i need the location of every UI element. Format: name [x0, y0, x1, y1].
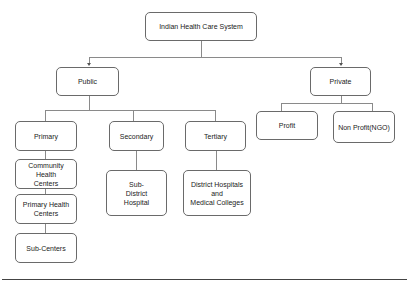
connector-tertiary-down [216, 151, 217, 170]
arrow-public-icon [87, 63, 91, 66]
bottom-divider [2, 279, 407, 280]
node-secondary: Secondary [109, 121, 164, 151]
node-tertiary: Tertiary [185, 121, 246, 151]
node-sub-district-hospital: Sub- District Hospital [106, 170, 167, 216]
node-primary-health-centers: Primary Health Centers [15, 194, 77, 224]
node-profit: Profit [256, 111, 318, 140]
connector-to-profit [281, 103, 282, 111]
connector-private-down [341, 96, 342, 103]
connector-public-down [89, 96, 90, 110]
connector-to-secondary [133, 110, 134, 121]
node-private: Private [310, 67, 371, 96]
node-root: Indian Health Care System [145, 12, 257, 41]
node-sub-centers: Sub-Centers [15, 233, 77, 263]
node-district-hospitals: District Hospitals and Medical Colleges [183, 170, 251, 216]
connector-public-branch [45, 110, 216, 111]
connector-secondary-down [136, 151, 137, 170]
connector-to-nonprofit [372, 103, 373, 111]
node-nonprofit-ngo: Non Profit(NGO) [333, 111, 395, 143]
node-public: Public [56, 67, 119, 96]
node-primary: Primary [15, 121, 77, 151]
connector-root-branch [89, 57, 342, 58]
connector-private-branch [281, 103, 373, 104]
connector-to-tertiary [215, 110, 216, 121]
connector-to-primary [45, 110, 46, 121]
arrow-private-icon [339, 63, 343, 66]
connector-root-down [201, 41, 202, 57]
node-community-health-centers: Community Health Centers [15, 159, 77, 189]
